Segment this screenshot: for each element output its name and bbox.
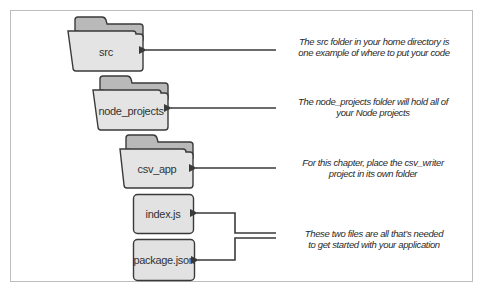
annotation-node-projects-line-1: The node_projects folder will hold all o… bbox=[298, 96, 448, 107]
arrow-index-js bbox=[197, 213, 276, 233]
folder-label-src: src bbox=[99, 46, 113, 58]
annotation-files: These two files are all that’s needed to… bbox=[305, 228, 443, 250]
folder-icon-node-projects bbox=[93, 76, 168, 130]
annotation-csv-app-line-2: project in its own folder bbox=[302, 168, 443, 179]
annotation-csv-app-line-1: For this chapter, place the csv_writer bbox=[302, 157, 443, 168]
folder-label-node-projects: node_projects bbox=[98, 105, 163, 117]
arrow-package-json bbox=[198, 238, 276, 260]
annotation-files-line-1: These two files are all that’s needed bbox=[305, 228, 443, 239]
file-label-index-js: index.js bbox=[146, 208, 181, 220]
file-label-package-json: package.json bbox=[133, 254, 194, 266]
annotation-src: The src folder in your home directory is… bbox=[298, 36, 449, 58]
annotation-node-projects: The node_projects folder will hold all o… bbox=[298, 96, 448, 118]
annotation-files-line-2: to get started with your application bbox=[305, 239, 443, 250]
annotation-node-projects-line-2: your Node projects bbox=[298, 107, 448, 118]
annotation-src-line-1: The src folder in your home directory is bbox=[298, 36, 449, 47]
annotation-src-line-2: one example of where to put your code bbox=[298, 47, 449, 58]
folder-icon-csv-app bbox=[120, 135, 193, 188]
annotation-csv-app: For this chapter, place the csv_writer p… bbox=[302, 157, 443, 179]
folder-icon-src bbox=[68, 17, 143, 71]
folder-label-csv-app: csv_app bbox=[138, 163, 177, 175]
